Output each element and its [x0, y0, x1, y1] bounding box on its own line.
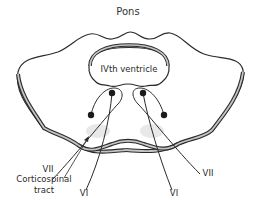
facial-nucleus-right [161, 112, 167, 118]
label-vi-right: VI [166, 188, 182, 198]
label-vi-left: VI [76, 188, 92, 198]
label-vii-right: VII [198, 168, 218, 178]
abducens-nerve-right [143, 93, 172, 190]
abducens-nucleus-left [109, 90, 115, 96]
facial-nucleus-left [88, 112, 94, 118]
label-fourth-ventricle: IVth ventricle [100, 64, 158, 74]
corticospinal-tract-left [86, 124, 110, 138]
label-tract: tract [30, 185, 58, 195]
abducens-nerve-left [86, 93, 112, 190]
pons-diagram: Pons IVth ventricle [0, 0, 256, 201]
arrowhead-icon [84, 136, 89, 142]
label-corticospinal: Corticospinal [14, 174, 74, 184]
label-vii-left: VII [38, 164, 58, 174]
abducens-nucleus-right [140, 90, 146, 96]
